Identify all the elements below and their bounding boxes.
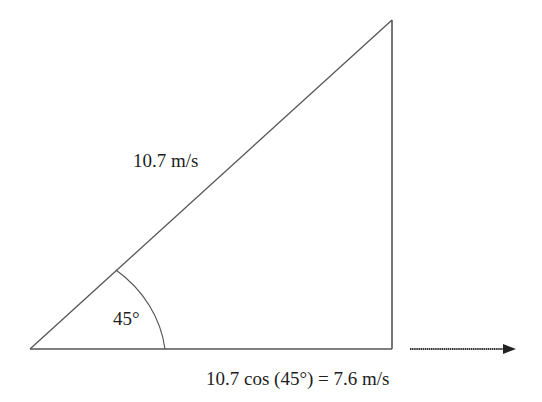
velocity-triangle-diagram: 10.7 m/s 45° 10.7 cos (45°) = 7.6 m/s — [0, 0, 542, 402]
hypotenuse-line — [30, 20, 392, 349]
horizontal-component-label: 10.7 cos (45°) = 7.6 m/s — [206, 368, 390, 390]
arrow-head-icon — [503, 344, 516, 354]
hypotenuse-label: 10.7 m/s — [133, 150, 198, 171]
angle-label: 45° — [113, 308, 140, 329]
